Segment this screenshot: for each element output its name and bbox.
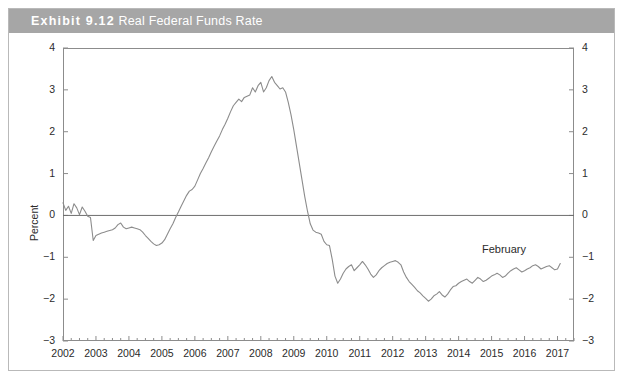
y-tick-label-left: 3: [29, 83, 55, 95]
data-series-line: [63, 76, 560, 301]
y-tick-label-left: 2: [29, 125, 55, 137]
y-tick-label-right: −3: [582, 334, 608, 346]
y-tick-label-right: 2: [582, 125, 608, 137]
y-tick-label-right: 4: [582, 41, 608, 53]
y-tick-label-left: −3: [29, 334, 55, 346]
y-tick-label-left: −2: [29, 292, 55, 304]
y-tick-label-right: 1: [582, 167, 608, 179]
y-tick-label-right: −1: [582, 250, 608, 262]
x-axis-minor-ticks: [71, 338, 574, 341]
exhibit-figure: Exhibit 9.12 Real Federal Funds Rate −3−…: [0, 0, 623, 387]
annotation-february: February: [482, 243, 526, 255]
y-axis-title: Percent: [28, 205, 40, 241]
x-tick-label: 2017: [538, 347, 578, 359]
y-tick-label-left: 4: [29, 41, 55, 53]
axis-major-ticks: [63, 48, 574, 341]
y-tick-label-right: 3: [582, 83, 608, 95]
y-tick-label-left: 1: [29, 167, 55, 179]
y-tick-label-right: −2: [582, 292, 608, 304]
chart-canvas: [0, 0, 623, 387]
y-tick-label-right: 0: [582, 208, 608, 220]
y-tick-label-left: −1: [29, 250, 55, 262]
